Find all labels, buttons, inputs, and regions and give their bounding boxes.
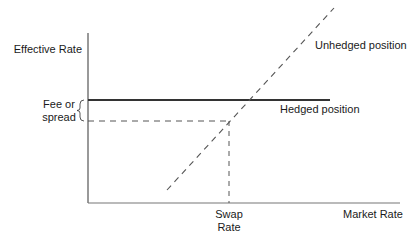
- fee-label-line2: spread: [34, 111, 84, 124]
- swap-rate-label-line1: Swap: [209, 208, 249, 221]
- x-axis-label: Market Rate: [343, 208, 403, 221]
- y-axis-label: Effective Rate: [2, 43, 82, 56]
- swap-rate-label-line2: Rate: [209, 221, 249, 234]
- hedged-label: Hedged position: [280, 103, 360, 116]
- fee-label-line1: Fee or: [34, 98, 84, 111]
- unhedged-label: Unhedged position: [315, 39, 407, 52]
